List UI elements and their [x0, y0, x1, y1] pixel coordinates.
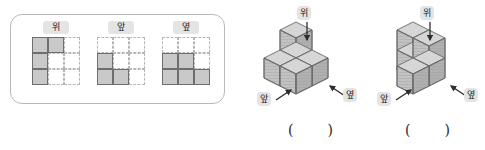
grid-cell [97, 69, 113, 85]
view-label-side: 옆 [173, 21, 199, 34]
view-grid-front [97, 37, 145, 85]
grid-cell [194, 69, 210, 85]
direction-arrow [396, 90, 411, 100]
grid-cell [162, 53, 178, 69]
grid-cell [194, 37, 210, 53]
cube [397, 58, 429, 94]
grid-cell [48, 53, 64, 69]
figure-1-front-label: 앞 [257, 92, 271, 106]
grid-cell [194, 53, 210, 69]
grid-cell [129, 69, 145, 85]
direction-arrow [276, 90, 291, 100]
grid-cell [129, 53, 145, 69]
figure-1-paren-close: ) [328, 122, 333, 138]
figure-1-answer-blank[interactable]: () [248, 122, 373, 138]
grid-cell [129, 37, 145, 53]
grid-cell [64, 69, 80, 85]
grid-cell [178, 53, 194, 69]
grid-cell [113, 69, 129, 85]
grid-cell [162, 37, 178, 53]
view-label-front: 앞 [108, 21, 134, 34]
grid-cell [48, 69, 64, 85]
figure-2-paren-open: ( [405, 122, 410, 138]
view-block-top: 위 [25, 21, 87, 85]
grid-cell [48, 37, 64, 53]
figure-2-paren-close: ) [445, 122, 450, 138]
grid-cell [64, 37, 80, 53]
cube-figure-1: 위 앞 옆 () [248, 0, 373, 150]
grid-cell [97, 37, 113, 53]
grid-cell [97, 53, 113, 69]
figure-2-answer-blank[interactable]: () [365, 122, 485, 138]
grid-cell [64, 53, 80, 69]
view-label-top: 위 [43, 21, 69, 34]
grid-cell [113, 37, 129, 53]
figure-2-front-label: 앞 [377, 92, 391, 106]
grid-cell [32, 53, 48, 69]
figure-1-side-label: 옆 [343, 88, 357, 102]
figure-1-top-label: 위 [297, 6, 311, 20]
cube-figure-2: 위 앞 옆 () [365, 0, 485, 150]
view-grid-top [32, 37, 80, 85]
grid-cell [32, 37, 48, 53]
view-block-side: 옆 [155, 21, 217, 85]
view-block-front: 앞 [90, 21, 152, 85]
grid-cell [113, 53, 129, 69]
figure-2-top-label: 위 [420, 6, 434, 20]
cube [280, 58, 312, 94]
figure-1-paren-open: ( [288, 122, 293, 138]
view-grid-side [162, 37, 210, 85]
grid-cell [162, 69, 178, 85]
grid-cell [32, 69, 48, 85]
grid-cell [178, 69, 194, 85]
grid-cell [178, 37, 194, 53]
figure-2-side-label: 옆 [464, 88, 478, 102]
orthographic-views-card: 위 앞 옆 [10, 14, 225, 104]
